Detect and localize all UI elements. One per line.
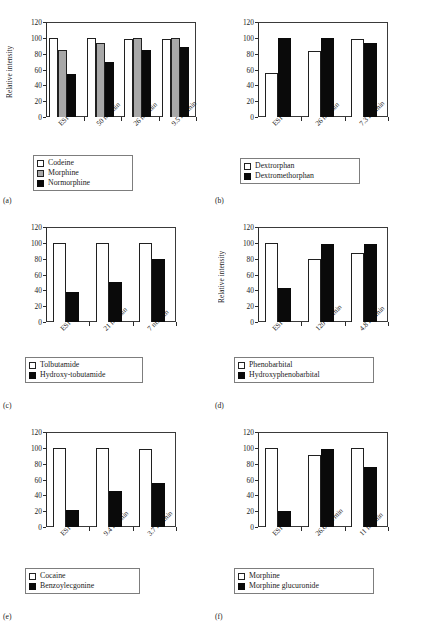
legend-swatch-icon — [37, 170, 44, 177]
y-axis-tick-mark — [255, 527, 258, 528]
bar-group — [139, 227, 165, 322]
y-axis-tick-label: 80 — [22, 459, 42, 468]
legend-item: Morphine — [37, 168, 127, 178]
bar-morphine-glucuronide — [364, 467, 377, 527]
panel-caption: (b) — [215, 196, 224, 205]
legend-swatch-icon — [29, 372, 36, 379]
legend-label: Codeine — [48, 158, 74, 168]
figure-panel-grid: Relative intensity020406080100120ESI50 n… — [0, 0, 424, 628]
chart-panel-b: 020406080100120ESI26 nL/min7.3 nL/minDex… — [212, 0, 424, 205]
y-axis-tick-label: 40 — [234, 491, 254, 500]
x-axis-tick-mark — [301, 527, 302, 531]
y-axis-tick-label: 100 — [234, 238, 254, 247]
bar-normorphine — [67, 74, 76, 117]
y-axis-tick-label: 100 — [22, 238, 42, 247]
x-axis-tick-mark — [301, 322, 302, 326]
bar-group — [351, 22, 377, 117]
bar-cocaine — [139, 449, 152, 527]
y-axis-tick-label: 40 — [234, 81, 254, 90]
y-axis-tick-label: 120 — [22, 18, 42, 27]
bar-dextromethorphan — [278, 38, 291, 117]
bar-morphine-glucuronide — [278, 511, 291, 527]
y-axis-tick-label: 60 — [234, 475, 254, 484]
legend-item: Phenobarbital — [238, 360, 368, 370]
bar-group — [308, 227, 334, 322]
y-axis-tick-label: 100 — [22, 443, 42, 452]
legend-label: Morphine — [249, 571, 280, 581]
x-axis-tick-mark — [89, 322, 90, 326]
bar-hydroxyphenobarbital — [321, 244, 334, 322]
plot-area — [258, 22, 388, 117]
x-axis-tick-mark — [388, 527, 389, 531]
bar-morphine — [308, 455, 321, 527]
y-axis-tick-label: 0 — [22, 523, 42, 532]
y-axis-tick-label: 0 — [22, 113, 42, 122]
y-axis-tick-label: 40 — [234, 286, 254, 295]
bar-morphine — [96, 43, 105, 117]
legend-swatch-icon — [29, 573, 36, 580]
bar-group — [351, 227, 377, 322]
legend-label: Dextrorphan — [255, 161, 294, 171]
bar-cocaine — [53, 448, 66, 527]
y-axis-tick-label: 120 — [22, 223, 42, 232]
legend-swatch-icon — [238, 583, 245, 590]
y-axis-tick-mark — [43, 527, 46, 528]
plot-area — [258, 227, 388, 322]
legend: CocaineBenzoylecgonine — [25, 568, 140, 594]
chart-panel-f: 020406080100120ESI26.6 nL/min11 nL/minMo… — [212, 410, 424, 628]
legend-label: Dextromethorphan — [255, 171, 314, 181]
bar-morphine — [58, 50, 67, 117]
bar-codeine — [162, 39, 171, 117]
bar-group — [162, 22, 189, 117]
legend-item: Benzoylecgonine — [29, 581, 134, 591]
bar-hydroxyphenobarbital — [278, 288, 291, 322]
bar-group — [308, 432, 334, 527]
y-axis-tick-label: 80 — [234, 459, 254, 468]
legend-item: Morphine glucuronide — [238, 581, 368, 591]
legend-item: Dextromethorphan — [244, 171, 354, 181]
bar-hydroxyphenobarbital — [364, 244, 377, 322]
plot-area — [258, 432, 388, 527]
legend-item: Tolbutamide — [29, 360, 137, 370]
bar-hydroxy-tobutamide — [109, 282, 122, 322]
y-axis-tick-label: 120 — [234, 223, 254, 232]
bar-benzoylecgonine — [152, 483, 165, 527]
y-axis-tick-label: 60 — [22, 475, 42, 484]
bar-codeine — [49, 38, 58, 117]
y-axis-tick-label: 20 — [234, 507, 254, 516]
bar-group — [265, 22, 291, 117]
y-axis-tick-label: 120 — [22, 428, 42, 437]
bar-benzoylecgonine — [66, 510, 79, 527]
y-axis-tick-mark — [255, 117, 258, 118]
bar-dextrorphan — [351, 39, 364, 117]
x-axis-tick-mark — [301, 117, 302, 121]
bar-group — [87, 22, 114, 117]
y-axis-tick-label: 0 — [22, 318, 42, 327]
legend-swatch-icon — [29, 583, 36, 590]
x-axis-tick-mark — [84, 117, 85, 121]
y-axis-tick-label: 60 — [234, 270, 254, 279]
panel-caption: (d) — [215, 401, 224, 410]
plot-area — [46, 432, 176, 527]
legend-item: Morphine — [238, 571, 368, 581]
y-axis-tick-label: 100 — [234, 443, 254, 452]
x-axis-tick-mark — [345, 322, 346, 326]
bar-morphine — [171, 38, 180, 117]
bar-group — [124, 22, 151, 117]
y-axis-tick-mark — [43, 322, 46, 323]
y-axis-tick-label: 60 — [22, 65, 42, 74]
legend-item: Hydroxyphenobarbital — [238, 370, 368, 380]
bar-group — [53, 227, 79, 322]
legend-swatch-icon — [37, 160, 44, 167]
chart-panel-a: Relative intensity020406080100120ESI50 n… — [0, 0, 212, 205]
bar-benzoylecgonine — [109, 491, 122, 527]
bar-tolbutamide — [53, 243, 66, 322]
y-axis-tick-label: 60 — [234, 65, 254, 74]
bar-morphine — [351, 448, 364, 527]
y-axis-title: Relative intensity — [6, 24, 14, 119]
legend: DextrorphanDextromethorphan — [240, 158, 360, 184]
y-axis-tick-label: 20 — [22, 507, 42, 516]
bar-codeine — [124, 39, 133, 117]
plot-area — [46, 22, 196, 117]
x-axis-tick-mark — [133, 527, 134, 531]
